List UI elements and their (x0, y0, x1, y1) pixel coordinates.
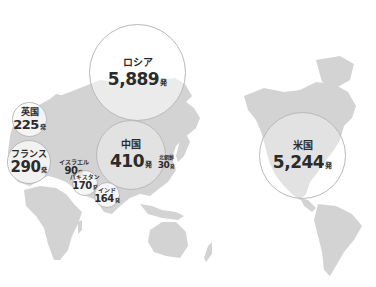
country-name-uk: 英国 (21, 108, 39, 117)
country-name-russia: ロシア (123, 58, 153, 68)
madagascar (78, 220, 82, 234)
value-usa: 5,244 発 (273, 154, 332, 171)
south-america (314, 204, 362, 276)
new-zealand (204, 242, 212, 262)
label-north-korea: 北朝鮮 30 発 (154, 150, 178, 174)
bubble-usa: 米国 5,244 発 (259, 112, 346, 199)
australia (148, 222, 188, 258)
bubble-russia: ロシア 5,889 発 (89, 24, 186, 121)
country-name-india: インド (98, 187, 116, 193)
bubble-uk: 英国 225 発 (12, 102, 47, 137)
value-uk: 225 発 (13, 118, 46, 131)
country-name-israel: イスラエル (59, 159, 89, 165)
central-america (300, 198, 316, 212)
southeast-asia (140, 204, 184, 220)
value-india: 164 発 (94, 194, 119, 204)
africa (24, 186, 82, 260)
value-north-korea: 30 発 (158, 161, 175, 170)
bubble-india: インド 164 発 (94, 182, 120, 208)
country-name-north-korea: 北朝鮮 (159, 155, 174, 160)
bubble-france: フランス 290 発 (7, 140, 51, 184)
country-name-usa: 米国 (293, 141, 313, 151)
value-france: 290 発 (11, 160, 48, 175)
value-russia: 5,889 発 (108, 71, 167, 88)
value-china: 410 発 (110, 153, 152, 170)
country-name-china: 中国 (121, 140, 141, 150)
